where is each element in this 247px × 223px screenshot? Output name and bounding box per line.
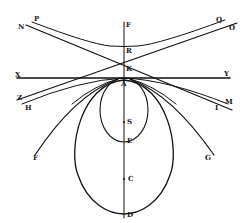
point-c bbox=[123, 178, 125, 180]
label-o: O bbox=[229, 23, 235, 32]
label-y: Y bbox=[223, 69, 230, 78]
label-x: X bbox=[15, 70, 21, 79]
label-m: M bbox=[225, 97, 233, 106]
label-p: P bbox=[34, 14, 40, 23]
label-k: K bbox=[126, 64, 133, 73]
label-g: G bbox=[205, 153, 211, 162]
label-f-top: F bbox=[126, 20, 131, 29]
label-n: N bbox=[18, 22, 25, 31]
label-e: E bbox=[127, 136, 132, 145]
label-a: A bbox=[120, 79, 127, 88]
label-s: S bbox=[127, 117, 132, 126]
label-h: H bbox=[25, 103, 32, 112]
label-i: I bbox=[215, 103, 218, 112]
geometric-diagram: P N Q O F R K X Y A Z H M I S E C D F G bbox=[0, 0, 247, 223]
label-d: D bbox=[127, 210, 133, 219]
point-s bbox=[123, 121, 125, 123]
label-f-bottom: F bbox=[33, 153, 38, 162]
label-q: Q bbox=[216, 15, 222, 24]
label-z: Z bbox=[17, 93, 22, 102]
label-r: R bbox=[126, 46, 132, 55]
label-c: C bbox=[128, 174, 134, 183]
